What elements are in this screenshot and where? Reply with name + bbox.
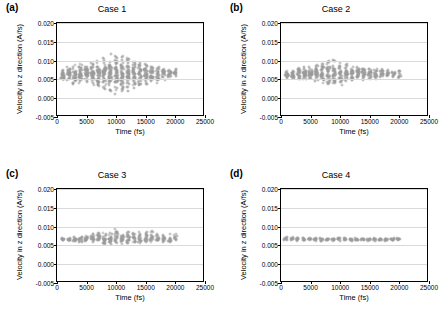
gridline-y xyxy=(281,264,427,265)
data-point xyxy=(332,73,335,76)
y-tick-mark xyxy=(54,42,57,43)
data-point xyxy=(345,64,348,67)
y-tick-label: 0.010 xyxy=(262,223,278,230)
data-point xyxy=(381,72,384,75)
y-tick-mark xyxy=(54,98,57,99)
data-point xyxy=(350,239,353,242)
data-point xyxy=(283,237,286,240)
x-tick-label: 10000 xyxy=(107,284,125,291)
x-tick-label: 20000 xyxy=(390,118,408,125)
data-point xyxy=(162,234,165,237)
data-point xyxy=(139,69,142,72)
data-point xyxy=(126,233,129,236)
data-point xyxy=(369,70,372,73)
data-point xyxy=(102,85,105,88)
x-tick-label: 5000 xyxy=(79,284,93,291)
y-tick-mark xyxy=(278,208,281,209)
x-tick-label: 15000 xyxy=(361,118,379,125)
data-point xyxy=(155,70,158,73)
panel-a: (a) Case 1 Velocity in z direction (A/fs… xyxy=(0,0,224,166)
y-tick-mark xyxy=(278,42,281,43)
y-tick-label: 0.005 xyxy=(38,76,54,83)
data-point xyxy=(92,74,95,77)
panel-d: (d) Case 4 Velocity in z direction (A/fs… xyxy=(224,166,448,332)
data-point xyxy=(108,72,111,75)
data-point xyxy=(132,87,135,90)
panel-c-points xyxy=(57,189,203,281)
y-tick-label: 0.010 xyxy=(38,223,54,230)
y-tick-label: 0.015 xyxy=(262,38,278,45)
data-point xyxy=(378,238,381,241)
data-point xyxy=(355,239,358,242)
y-tick-label: 0.000 xyxy=(38,95,54,102)
data-point xyxy=(381,68,384,71)
data-point xyxy=(150,235,153,238)
data-point xyxy=(108,89,111,92)
data-point xyxy=(372,238,375,241)
data-point xyxy=(68,238,71,241)
data-point xyxy=(92,81,95,84)
panel-b: (b) Case 2 Velocity in z direction (A/fs… xyxy=(224,0,448,166)
x-tick-label: 10000 xyxy=(331,118,349,125)
panel-a-plot-area: Velocity in z direction (A/fs) Time (fs)… xyxy=(56,22,204,116)
data-point xyxy=(368,238,371,241)
data-point xyxy=(78,66,81,69)
x-tick-label: 0 xyxy=(279,284,283,291)
data-point xyxy=(374,73,377,76)
data-point xyxy=(396,238,399,241)
data-point xyxy=(80,73,83,76)
data-point xyxy=(157,65,160,68)
data-point xyxy=(163,237,166,240)
data-point xyxy=(120,63,123,66)
panel-b-title: Case 2 xyxy=(224,4,448,14)
y-tick-label: -0.005 xyxy=(260,280,278,287)
data-point xyxy=(139,239,142,242)
data-point xyxy=(390,238,393,241)
y-tick-label: 0.005 xyxy=(262,76,278,83)
data-point xyxy=(144,74,147,77)
y-tick-mark xyxy=(278,264,281,265)
data-point xyxy=(132,232,135,235)
panel-a-title: Case 1 xyxy=(0,4,224,14)
data-point xyxy=(297,75,300,78)
gridline-y xyxy=(57,42,203,43)
gridline-y xyxy=(281,23,427,24)
panel-c-title: Case 3 xyxy=(0,170,224,180)
data-point xyxy=(302,66,305,69)
gridline-y xyxy=(57,227,203,228)
data-point xyxy=(163,70,166,73)
data-point xyxy=(340,84,343,87)
data-point xyxy=(350,73,353,76)
data-point xyxy=(320,65,323,68)
panel-c: (c) Case 3 Velocity in z direction (A/fs… xyxy=(0,166,224,332)
data-point xyxy=(332,69,335,72)
panel-c-plot-area: Velocity in z direction (A/fs) Time (fs)… xyxy=(56,188,204,282)
y-tick-mark xyxy=(278,245,281,246)
data-point xyxy=(332,81,335,84)
gridline-y xyxy=(57,61,203,62)
data-point xyxy=(85,80,88,83)
data-point xyxy=(174,71,177,74)
data-point xyxy=(121,54,124,57)
x-tick-label: 0 xyxy=(55,284,59,291)
data-point xyxy=(145,82,148,85)
data-point xyxy=(351,69,354,72)
data-point xyxy=(61,238,64,241)
data-point xyxy=(132,237,135,240)
data-point xyxy=(97,84,100,87)
data-point xyxy=(315,237,318,240)
panel-b-points xyxy=(281,23,427,115)
y-tick-mark xyxy=(54,208,57,209)
data-point xyxy=(375,67,378,70)
data-point xyxy=(113,238,116,241)
panel-a-ylabel: Velocity in z direction (A/fs) xyxy=(15,24,24,114)
data-point xyxy=(379,75,382,78)
data-point xyxy=(97,236,100,239)
x-tick-label: 0 xyxy=(55,118,59,125)
gridline-y xyxy=(57,98,203,99)
data-point xyxy=(319,238,322,241)
gridline-y xyxy=(57,189,203,190)
data-point xyxy=(66,69,69,72)
y-tick-label: 0.020 xyxy=(38,20,54,27)
data-point xyxy=(121,74,124,77)
